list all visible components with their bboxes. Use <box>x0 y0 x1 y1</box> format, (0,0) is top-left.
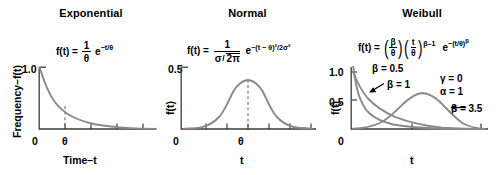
plot-area-exponential <box>38 66 160 134</box>
x-axis-label-exponential: Time–t <box>63 155 97 166</box>
x-tick-label-0: 0 <box>32 136 38 147</box>
formula-exponent: −t/θ <box>101 43 113 52</box>
formula-exponent-body: −(t/θ) <box>448 39 465 48</box>
plot-area-weibull <box>350 66 498 134</box>
formula-lhs: f(t) = <box>358 42 380 53</box>
formula-exponent: −(t − θ)²/2σ² <box>251 43 290 52</box>
formula-term2-exponent: β–1 <box>423 39 435 48</box>
formula-denominator: σ2π <box>213 52 242 65</box>
panel-exponential: Exponential f(t) = 1 θ e−t/θ Frequency–f… <box>0 0 160 175</box>
y-axis-label-exponential: Frequency–f(t) <box>12 65 23 138</box>
formula-term2-numerator: t <box>411 38 416 48</box>
formula-paren-open-2: ( <box>404 38 409 58</box>
plot-area-normal <box>180 66 320 134</box>
formula-fraction: 1 σ2π <box>213 39 242 65</box>
formula-paren-close-1: ) <box>398 38 403 58</box>
x-axis-label-normal: t <box>240 155 244 166</box>
formula-sqrt-content: 2π <box>227 53 240 64</box>
formula-lhs: f(t) = <box>187 45 209 56</box>
x-tick-label-theta: θ <box>238 136 244 147</box>
formula-term1-fraction: βθ <box>389 38 396 57</box>
formula-fraction: 1 θ <box>82 40 92 64</box>
formula-sigma: σ <box>215 53 222 64</box>
formula-lhs: f(t) = <box>56 46 78 57</box>
figure-distribution-plots: Exponential f(t) = 1 θ e−t/θ Frequency–f… <box>0 0 501 175</box>
panel-weibull: Weibull f(t) = (βθ)(tθ)β–1 e−(t/θ)β f(t)… <box>325 0 501 175</box>
formula-denominator: θ <box>82 52 91 64</box>
formula-term2-fraction: tθ <box>410 38 417 57</box>
formula-exponent-superscript: β <box>465 38 469 44</box>
y-axis-label-normal: f(t) <box>165 101 176 115</box>
formula-numerator: 1 <box>214 39 240 52</box>
x-tick-label-theta: θ <box>62 136 68 147</box>
formula-exponential: f(t) = 1 θ e−t/θ <box>56 40 113 64</box>
formula-term2-denominator: θ <box>410 48 417 57</box>
formula-sqrt: 2π <box>222 52 240 64</box>
panel-title-exponential: Exponential <box>0 7 160 20</box>
formula-normal: f(t) = 1 σ2π e−(t − θ)²/2σ² <box>187 39 290 65</box>
x-tick-label-0: 0 <box>338 136 344 147</box>
panel-title-normal: Normal <box>160 7 325 20</box>
formula-term1-denominator: θ <box>390 48 397 57</box>
y-tick-label-1.0: 1.0 <box>22 64 37 75</box>
x-axis-label-weibull: t <box>410 155 414 166</box>
panel-normal: Normal f(t) = 1 σ2π e−(t − θ)²/2σ² f(t) … <box>160 0 325 175</box>
x-tick-label-0: 0 <box>173 136 179 147</box>
formula-numerator: 1 <box>82 40 92 53</box>
panel-title-weibull: Weibull <box>325 7 501 20</box>
formula-paren-open-1: ( <box>384 38 389 58</box>
formula-weibull: f(t) = (βθ)(tθ)β–1 e−(t/θ)β <box>358 38 469 58</box>
formula-exponent: −(t/θ)β <box>448 39 469 48</box>
formula-paren-close-2: ) <box>418 38 423 58</box>
y-tick-label-1.0: 1.0 <box>329 67 344 78</box>
formula-term1-numerator: β <box>389 38 396 48</box>
y-tick-label-0.5: 0.5 <box>329 97 344 108</box>
